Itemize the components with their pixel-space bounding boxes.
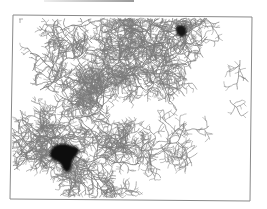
fractal-figure (0, 0, 267, 209)
